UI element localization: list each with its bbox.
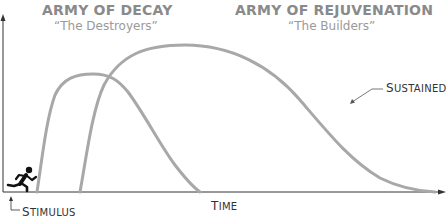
- rejuvenation-curve: [80, 45, 435, 192]
- y-axis-arrow-icon: [1, 14, 6, 21]
- rejuvenation-title: ARMY OF REJUVENATION: [235, 2, 433, 18]
- chart-canvas: [0, 0, 447, 221]
- stimulus-label-initial: S: [22, 205, 30, 219]
- decay-subtitle: “The Destroyers”: [54, 19, 158, 33]
- decay-title: ARMY OF DECAY: [42, 2, 173, 18]
- time-label: TIME: [211, 199, 237, 213]
- stimulus-label-rest: TIMULUS: [30, 207, 76, 218]
- stimulus-pointer: [9, 196, 20, 210]
- time-label-rest: IME: [219, 201, 238, 212]
- rejuvenation-subtitle: “The Builders”: [288, 19, 375, 33]
- x-axis-arrow-icon: [438, 190, 446, 195]
- sustained-label-rest: USTAINED: [394, 83, 447, 94]
- decay-curve: [37, 74, 200, 192]
- sustained-label: SUSTAINED: [386, 81, 447, 95]
- axes: [1, 14, 447, 195]
- sustained-pointer: [350, 89, 383, 104]
- time-label-initial: T: [211, 199, 219, 213]
- stimulus-label: STIMULUS: [22, 205, 76, 219]
- sustained-arrow-icon: [350, 99, 355, 104]
- stimulus-arrow-icon: [9, 196, 13, 201]
- sustained-label-initial: S: [386, 81, 394, 95]
- running-person-icon: [8, 167, 36, 191]
